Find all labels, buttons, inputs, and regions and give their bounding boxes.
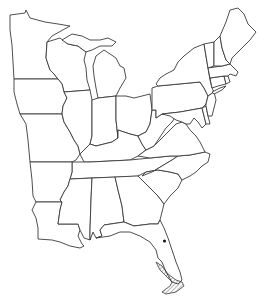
florida-point-marker — [163, 239, 166, 242]
state-michigan-lower — [93, 50, 126, 98]
state-iowa — [14, 79, 67, 114]
state-maine — [220, 8, 256, 64]
state-indiana — [90, 96, 118, 146]
eastern-us-outline-map — [0, 0, 267, 301]
